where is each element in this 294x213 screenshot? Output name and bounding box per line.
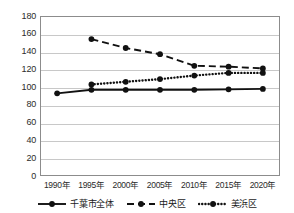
legend-item-千葉市全体[interactable]: 千葉市全体 <box>37 199 114 209</box>
legend-item-美浜区[interactable]: 美浜区 <box>198 199 257 209</box>
data-point <box>226 86 232 92</box>
data-point <box>260 70 266 76</box>
y-axis-tick-label: 120 <box>6 65 36 74</box>
legend-label: 千葉市全体 <box>70 199 114 209</box>
y-axis-tick-label: 40 <box>6 136 36 145</box>
data-point <box>89 87 95 93</box>
series-layer <box>40 16 280 176</box>
y-axis-tick-label: 180 <box>6 12 36 21</box>
y-axis-tick-label: 80 <box>6 100 36 109</box>
y-axis-tick-label: 140 <box>6 47 36 56</box>
x-axis: 1990年1995年2000年2005年2010年2015年2020年 <box>40 180 280 194</box>
data-point <box>191 63 197 69</box>
y-axis-tick-label: 100 <box>6 83 36 92</box>
legend-swatch-icon <box>126 199 156 209</box>
y-axis-tick-label: 20 <box>6 154 36 163</box>
data-point <box>54 90 60 96</box>
data-point <box>123 87 129 93</box>
data-point <box>157 76 163 82</box>
series-千葉市全体 <box>54 86 266 96</box>
data-point <box>226 64 232 70</box>
data-point <box>191 87 197 93</box>
data-point <box>123 79 129 85</box>
legend-swatch-icon <box>37 199 67 209</box>
series-中央区 <box>89 36 266 71</box>
series-line <box>91 39 262 68</box>
data-point <box>89 82 95 88</box>
y-axis-tick-label: 60 <box>6 118 36 127</box>
line-chart: 020406080100120140160180 1990年1995年2000年… <box>0 0 294 213</box>
y-axis-tick-label: 0 <box>6 172 36 181</box>
data-point <box>191 73 197 79</box>
chart-legend: 千葉市全体中央区美浜区 <box>0 195 294 213</box>
data-point <box>157 87 163 93</box>
series-line <box>91 73 262 85</box>
series-美浜区 <box>89 70 266 87</box>
data-point <box>123 45 129 51</box>
legend-label: 中央区 <box>159 199 185 209</box>
legend-label: 美浜区 <box>231 199 257 209</box>
legend-swatch-icon <box>198 199 228 209</box>
y-axis-tick-label: 160 <box>6 29 36 38</box>
data-point <box>157 51 163 57</box>
x-axis-tick-label: 2020年 <box>240 180 286 191</box>
data-point <box>260 86 266 92</box>
data-point <box>89 36 95 42</box>
data-point <box>226 70 232 76</box>
legend-item-中央区[interactable]: 中央区 <box>126 199 185 209</box>
